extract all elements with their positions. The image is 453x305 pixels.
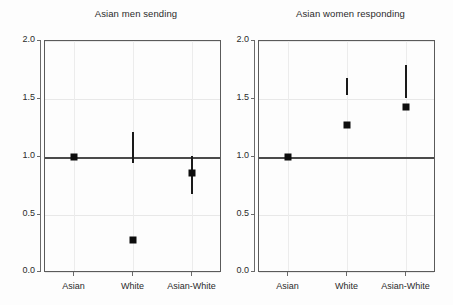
ytick-mark-2-0 — [37, 40, 41, 41]
gridline-x-white — [347, 41, 348, 271]
figure-container: Asian men sending 2.0 — [0, 0, 453, 305]
ytick-label-0-5: 0.5 — [220, 208, 249, 218]
xtick-mark-white — [132, 272, 133, 276]
data-point-white — [130, 237, 137, 244]
ytick-mark-0-5 — [251, 214, 255, 215]
xtick-mark-asian-white — [405, 272, 406, 276]
error-bar-white — [346, 78, 348, 95]
ytick-mark-1-5 — [251, 98, 255, 99]
data-point-asian-white — [189, 170, 196, 177]
panel-title-right: Asian women responding — [258, 8, 443, 19]
ytick-label-0-0: 0.0 — [6, 265, 35, 275]
xtick-mark-white — [346, 272, 347, 276]
xtick-mark-asian-white — [191, 272, 192, 276]
ytick-mark-2-0 — [251, 40, 255, 41]
ytick-label-1-0: 1.0 — [220, 150, 249, 160]
ytick-label-1-5: 1.5 — [220, 92, 249, 102]
data-point-asian-white — [403, 104, 410, 111]
ytick-label-1-5: 1.5 — [6, 92, 35, 102]
data-point-white — [344, 122, 351, 129]
ytick-mark-0-5 — [37, 214, 41, 215]
error-bar-white — [132, 132, 134, 163]
xtick-mark-asian — [73, 272, 74, 276]
xtick-label-white: White — [105, 281, 160, 291]
data-point-asian — [71, 154, 78, 161]
data-point-asian — [285, 154, 292, 161]
ytick-mark-0-0 — [251, 271, 255, 272]
ytick-mark-1-0 — [251, 156, 255, 157]
panel-title-left: Asian men sending — [40, 8, 232, 19]
xtick-label-white: White — [319, 281, 374, 291]
error-bar-asian-white — [405, 65, 407, 98]
plot-area-left — [44, 40, 221, 272]
ytick-label-0-0: 0.0 — [220, 265, 249, 275]
xtick-label-asian-white: Asian-White — [158, 281, 225, 291]
plot-area-right — [258, 40, 435, 272]
panel-asian-women-responding: Asian women responding 2.0 1.5 1.0 — [232, 0, 453, 305]
ytick-mark-1-5 — [37, 98, 41, 99]
xtick-label-asian-white: Asian-White — [372, 281, 439, 291]
panel-asian-men-sending: Asian men sending 2.0 — [0, 0, 232, 305]
ytick-mark-1-0 — [37, 156, 41, 157]
ytick-label-2-0: 2.0 — [220, 34, 249, 44]
xtick-label-asian: Asian — [260, 281, 315, 291]
ytick-label-2-0: 2.0 — [6, 34, 35, 44]
ytick-mark-0-0 — [37, 271, 41, 272]
ytick-label-1-0: 1.0 — [6, 150, 35, 160]
xtick-label-asian: Asian — [46, 281, 101, 291]
ytick-label-0-5: 0.5 — [6, 208, 35, 218]
xtick-mark-asian — [287, 272, 288, 276]
